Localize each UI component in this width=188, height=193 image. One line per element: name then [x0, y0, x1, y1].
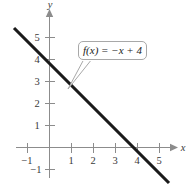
x-tick-label: 2: [90, 155, 95, 166]
x-tick-label: 5: [156, 155, 161, 166]
x-axis-arrow-icon: [170, 144, 178, 151]
y-tick-label: 5: [34, 32, 39, 43]
callout-pointer: [68, 59, 92, 89]
x-tick-label: 3: [112, 155, 117, 166]
y-tick-label: 2: [34, 98, 39, 109]
x-axis-label: x: [180, 142, 186, 153]
y-tick-label: 1: [34, 120, 39, 131]
y-tick-label: 3: [34, 76, 39, 87]
y-axis-arrow-icon: [46, 9, 53, 17]
y-tick-label: −1: [30, 164, 41, 175]
graph-figure: −1 1 2 3 4 5 5 4 3 2 1 −1 x y f(x) = −x …: [0, 0, 188, 193]
equation-callout-label: f(x) = −x + 4: [83, 44, 142, 57]
x-tick-label: 4: [134, 155, 140, 166]
y-axis-label: y: [47, 0, 53, 10]
coordinate-plane-graph: −1 1 2 3 4 5 5 4 3 2 1 −1 x y f(x) = −x …: [0, 0, 188, 193]
x-tick-label: 1: [68, 155, 73, 166]
